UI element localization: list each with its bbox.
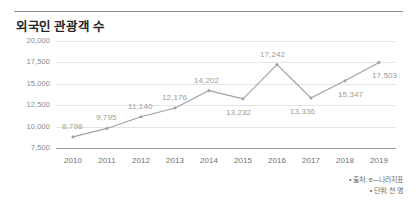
data-point-label: 9,795 bbox=[96, 113, 117, 122]
data-point-label: 17,503 bbox=[372, 71, 397, 80]
data-point-label: 13,232 bbox=[226, 108, 251, 117]
data-point-marker bbox=[139, 115, 143, 119]
footnote-source: • 출처: e—나라지표 bbox=[349, 174, 403, 184]
series-path bbox=[73, 62, 379, 136]
data-point-marker bbox=[207, 89, 211, 93]
data-point-label: 12,176 bbox=[162, 93, 187, 102]
data-point-label: 17,242 bbox=[260, 50, 285, 59]
footnote-unit: • 단위: 천 명 bbox=[370, 185, 403, 195]
data-point-label: 13,336 bbox=[290, 107, 315, 116]
data-point-marker bbox=[105, 127, 109, 131]
data-point-marker bbox=[71, 135, 75, 139]
data-point-label: 11,140 bbox=[128, 102, 152, 111]
data-point-label: 8,798 bbox=[62, 122, 83, 131]
chart-figure: 외국인 관광객 수 20,00017,50015,00012,50010,000… bbox=[0, 0, 417, 205]
data-point-label: 15,347 bbox=[338, 90, 363, 99]
data-point-label: 14,202 bbox=[194, 76, 219, 85]
data-point-marker bbox=[173, 106, 177, 110]
